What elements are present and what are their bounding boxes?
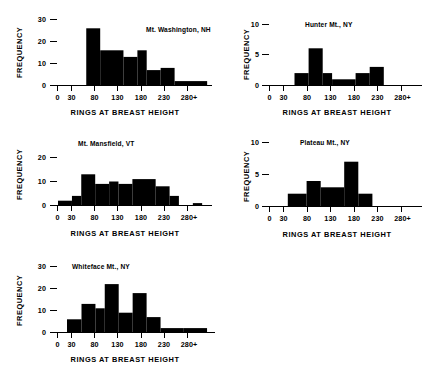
y-tick-label: 0 (255, 81, 259, 90)
y-tick-label: 10 (251, 20, 259, 29)
y-tick-label: 10 (38, 59, 46, 68)
y-axis-title: FREQUENCY (15, 149, 24, 200)
x-axis-title: RINGS AT BREAST HEIGHT (71, 108, 180, 117)
x-tick-label: 230 (371, 214, 383, 223)
x-tick-label: 30 (279, 214, 287, 223)
x-axis-title: RINGS AT BREAST HEIGHT (283, 108, 392, 117)
y-tick-label: 10 (38, 306, 46, 315)
chart-panel-mt-mansfield: FREQUENCY 20 10 0 Mt. Mansfield, VT (0, 128, 230, 250)
x-tick-label: 80 (90, 213, 98, 222)
bar-series (58, 174, 202, 205)
x-tick-label: 180 (348, 93, 360, 102)
y-tick-label: 20 (38, 153, 46, 162)
x-tick-label: 130 (111, 93, 123, 102)
y-tick-label: 0 (42, 328, 46, 337)
x-tick-label: 30 (67, 93, 75, 102)
x-tick-label: 280+ (181, 93, 198, 102)
x-tick-label: 30 (279, 93, 287, 102)
bar (81, 174, 95, 205)
panel-title: Mt. Washington, NH (146, 26, 211, 34)
bar (137, 50, 146, 85)
bar-series (288, 162, 373, 207)
bar (332, 79, 356, 85)
panel-title: Hunter Mt., NY (305, 21, 353, 29)
chart-panel-plateau-mt: FREQUENCY 10 5 0 Plateau Mt., NY (230, 128, 437, 250)
y-tick-label: 10 (38, 177, 46, 186)
y-tick-label: 0 (255, 202, 259, 211)
bar (58, 201, 72, 206)
x-tick-label: 230 (158, 213, 170, 222)
bar (72, 196, 81, 206)
bar (109, 182, 118, 206)
x-tick-label: 180 (135, 93, 147, 102)
panel-title: Mt. Mansfield, VT (78, 140, 134, 148)
y-tick-label: 0 (42, 81, 46, 90)
y-axis-title: FREQUENCY (242, 29, 251, 80)
bar (321, 187, 345, 206)
bar (95, 308, 104, 332)
bar (184, 328, 207, 332)
bar (358, 194, 372, 207)
chart-svg-plateau-mt: FREQUENCY 10 5 0 Plateau Mt., NY (230, 128, 437, 250)
x-tick-label: 130 (324, 93, 336, 102)
bar (132, 179, 155, 205)
x-tick-label: 80 (90, 93, 98, 102)
x-tick-label: 130 (111, 340, 123, 349)
bar (323, 73, 332, 85)
bar (288, 194, 307, 207)
x-tick-label: 280+ (394, 93, 411, 102)
x-tick-label: 30 (67, 340, 75, 349)
bar-series (295, 48, 384, 85)
y-tick-label: 0 (42, 201, 46, 210)
x-tick-label: 180 (348, 214, 360, 223)
bar (67, 319, 82, 332)
y-tick-label: 30 (38, 15, 46, 24)
y-tick-label: 5 (255, 170, 259, 179)
bar (82, 304, 96, 333)
y-tick-label: 10 (251, 138, 259, 147)
bar (161, 328, 184, 332)
bar (156, 186, 170, 205)
y-tick-label: 20 (38, 284, 46, 293)
y-tick-label: 20 (38, 37, 46, 46)
x-tick-label: 0 (55, 213, 59, 222)
bar (118, 184, 132, 206)
bar (309, 48, 323, 85)
bar (295, 73, 309, 85)
bar (344, 162, 358, 207)
x-tick-label: 130 (111, 213, 123, 222)
x-tick-label: 30 (67, 213, 75, 222)
x-tick-label: 80 (90, 340, 98, 349)
x-tick-label: 280+ (394, 214, 411, 223)
panel-title: Whiteface Mt., NY (72, 263, 130, 271)
panel-title: Plateau Mt., NY (300, 139, 350, 147)
bar (100, 50, 123, 85)
bar (307, 181, 321, 207)
x-tick-label: 180 (135, 340, 147, 349)
chart-svg-hunter-mt: FREQUENCY 10 5 0 Hunter Mt., NY (230, 0, 437, 128)
bar (86, 28, 100, 85)
chart-panel-whiteface-mt: FREQUENCY 30 20 10 0 Whiteface Mt., NY (0, 250, 240, 369)
x-tick-label: 0 (55, 340, 59, 349)
y-tick-label: 30 (38, 262, 46, 271)
chart-panel-hunter-mt: FREQUENCY 10 5 0 Hunter Mt., NY (230, 0, 437, 128)
chart-svg-mt-washington: FREQUENCY 30 20 10 0 Mt. Washington, NH (0, 0, 230, 128)
bar (95, 184, 109, 206)
bar (105, 284, 119, 332)
y-axis-title: FREQUENCY (242, 151, 251, 202)
bar-series (67, 284, 207, 332)
chart-panel-mt-washington: FREQUENCY 30 20 10 0 Mt. Washington, NH (0, 0, 230, 128)
bar (175, 81, 208, 85)
bar (119, 313, 133, 333)
x-tick-label: 0 (267, 93, 271, 102)
x-tick-label: 280+ (181, 213, 198, 222)
x-tick-label: 0 (55, 93, 59, 102)
bar (170, 196, 179, 206)
y-tick-label: 5 (255, 50, 259, 59)
x-axis-title: RINGS AT BREAST HEIGHT (71, 229, 180, 238)
x-tick-label: 80 (303, 93, 311, 102)
x-tick-label: 180 (135, 213, 147, 222)
chart-svg-mt-mansfield: FREQUENCY 20 10 0 Mt. Mansfield, VT (0, 128, 230, 250)
bar (147, 70, 161, 85)
bar (370, 67, 384, 86)
